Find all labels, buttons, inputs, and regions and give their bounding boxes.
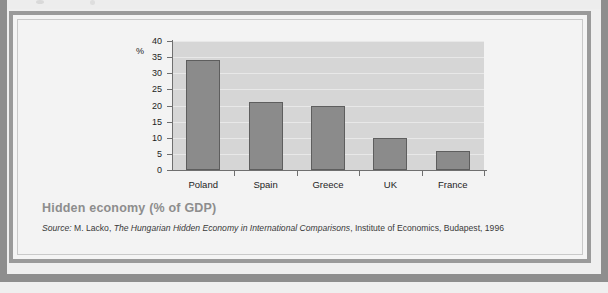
- gridline: [172, 41, 484, 42]
- y-axis-line: [172, 40, 173, 171]
- x-axis-tick-label: Greece: [293, 179, 363, 190]
- y-axis-tick-label: 0: [124, 166, 162, 175]
- bar: [186, 60, 220, 170]
- x-axis-tick: [297, 171, 298, 176]
- x-axis-tick-label: Poland: [168, 179, 238, 190]
- source-work-title: The Hungarian Hidden Economy in Internat…: [114, 223, 350, 233]
- x-axis-tick: [359, 171, 360, 176]
- source-publisher: , Institute of Economics, Budapest, 1996: [350, 223, 504, 233]
- x-axis-tick: [484, 171, 485, 176]
- y-axis-tick-label: 25: [124, 85, 162, 94]
- x-axis-tick: [234, 171, 235, 176]
- bar-chart: % 0510152025303540 PolandSpainGreeceUKFr…: [18, 20, 582, 254]
- figure-frame-inner: % 0510152025303540 PolandSpainGreeceUKFr…: [17, 19, 583, 255]
- y-axis-tick-label: 30: [124, 69, 162, 78]
- scan-speck-icon: [36, 0, 44, 4]
- y-axis-tick-label: 40: [124, 37, 162, 46]
- page-edge-bottom: [0, 274, 608, 282]
- x-axis-tick-label: Spain: [231, 179, 301, 190]
- gridline: [172, 57, 484, 58]
- figure-page: % 0510152025303540 PolandSpainGreeceUKFr…: [0, 0, 608, 293]
- bar: [249, 102, 283, 170]
- x-axis-tick-label: UK: [355, 179, 425, 190]
- bar: [311, 106, 345, 171]
- y-axis-tick-label: 5: [124, 150, 162, 159]
- figure-source: Source: M. Lacko, The Hungarian Hidden E…: [42, 222, 572, 235]
- figure-title: Hidden economy (% of GDP): [42, 201, 216, 215]
- y-axis-tick-label: 20: [124, 102, 162, 111]
- y-axis-tick-label: 10: [124, 134, 162, 143]
- x-axis-line: [172, 170, 487, 171]
- scan-speck-icon: [90, 0, 95, 5]
- page-edge-right: [601, 0, 608, 281]
- source-prefix: Source:: [42, 223, 72, 233]
- page-edge-left: [0, 0, 7, 281]
- y-axis-tick-label: 15: [124, 118, 162, 127]
- source-author: M. Lacko,: [72, 223, 114, 233]
- bar: [436, 151, 470, 170]
- x-axis-tick: [422, 171, 423, 176]
- scan-artifact-top: [0, 0, 608, 9]
- figure-frame: % 0510152025303540 PolandSpainGreeceUKFr…: [9, 11, 591, 263]
- bar: [373, 138, 407, 170]
- x-axis-tick-label: France: [418, 179, 488, 190]
- y-axis-tick-label: 35: [124, 53, 162, 62]
